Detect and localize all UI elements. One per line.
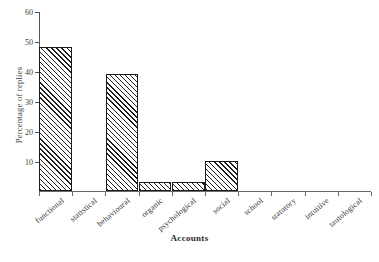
bar <box>39 47 72 191</box>
x-axis-title: Accounts <box>0 233 379 243</box>
bar-chart: Percentage of replies 102030405060 funct… <box>0 0 379 262</box>
x-tick-mark <box>39 192 40 196</box>
y-axis-title: Percentage of replies <box>14 35 24 175</box>
y-tick-label: 20 <box>25 128 33 137</box>
y-tick-label: 60 <box>25 8 33 17</box>
y-tick-mark <box>35 42 39 43</box>
x-tick-label-text: intuitive <box>303 196 331 221</box>
x-tick-label-text: social <box>210 196 231 216</box>
x-tick-label-text: school <box>242 196 265 217</box>
x-tick-label-text: organic <box>140 196 165 219</box>
y-tick-label: 30 <box>25 98 33 107</box>
bar <box>106 74 139 191</box>
plot-area: 102030405060 <box>39 12 371 192</box>
y-tick-mark <box>35 12 39 13</box>
y-tick-label: 40 <box>25 68 33 77</box>
x-tick-label-text: statistical <box>68 196 99 224</box>
x-tick-label-text: statutory <box>269 196 298 222</box>
y-tick-label: 50 <box>25 38 33 47</box>
y-tick-label: 10 <box>25 158 33 167</box>
x-tick-label-text: functional <box>33 196 65 225</box>
